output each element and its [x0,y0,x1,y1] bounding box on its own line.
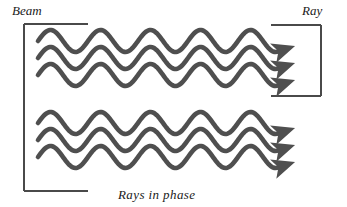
wave-diagram-figure: Beam Ray Rays in phase [0,0,347,207]
wave-group-upper [38,30,278,86]
waves-and-brackets-svg [0,0,347,207]
wave-group-lower [38,112,278,168]
